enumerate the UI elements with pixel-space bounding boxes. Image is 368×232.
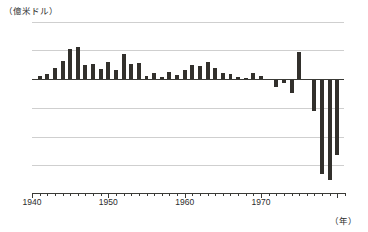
x-tick [215, 193, 216, 196]
x-tick [223, 193, 224, 196]
bar [83, 65, 87, 79]
bar [114, 70, 118, 79]
x-tick [292, 193, 293, 196]
x-tick-label: 1950 [99, 198, 118, 207]
bar [68, 49, 72, 79]
x-tick [253, 193, 254, 196]
x-tick [131, 193, 132, 196]
x-tick [116, 193, 117, 196]
x-tick-label: 1970 [252, 198, 271, 207]
x-tick [330, 193, 331, 196]
x-tick [124, 193, 125, 196]
bar [137, 63, 141, 79]
bar [61, 61, 65, 79]
x-tick [47, 193, 48, 196]
bar [122, 54, 126, 79]
x-tick [314, 193, 315, 196]
x-tick [276, 193, 277, 196]
bar [183, 70, 187, 79]
x-tick [208, 193, 209, 196]
bar [91, 64, 95, 79]
x-tick [78, 193, 79, 196]
bar [290, 79, 294, 93]
x-tick [337, 193, 338, 198]
bar [190, 65, 194, 79]
bar [274, 79, 278, 87]
x-tick [139, 193, 140, 196]
x-tick [200, 193, 201, 196]
x-tick [345, 193, 346, 196]
bar [53, 68, 57, 80]
gridline [32, 108, 344, 109]
bar [297, 52, 301, 79]
x-tick [40, 193, 41, 196]
x-tick [230, 193, 231, 196]
x-tick [299, 193, 300, 196]
x-axis-line [32, 193, 345, 194]
chart-container: （億米ドル） 2001000-100-200-300-400 194019501… [0, 0, 368, 232]
x-tick [322, 193, 323, 196]
zero-line [32, 79, 344, 80]
x-tick [246, 193, 247, 196]
x-tick-label: 1960 [175, 198, 194, 207]
x-tick [55, 193, 56, 196]
x-tick [284, 193, 285, 196]
x-tick [269, 193, 270, 196]
bar [312, 79, 316, 111]
bar [99, 69, 103, 79]
gridline [32, 165, 344, 166]
gridline [32, 22, 344, 23]
bar [320, 79, 324, 174]
x-tick [177, 193, 178, 196]
x-axis-unit-label: （年） [330, 214, 357, 226]
x-tick [93, 193, 94, 196]
x-tick [192, 193, 193, 196]
gridline [32, 137, 344, 138]
x-tick [147, 193, 148, 196]
bar [129, 64, 133, 79]
bar [335, 79, 339, 155]
bar [206, 62, 210, 79]
bar [213, 68, 217, 79]
bar [198, 66, 202, 79]
x-tick [307, 193, 308, 196]
x-tick [101, 193, 102, 196]
bar [167, 72, 171, 79]
x-tick [154, 193, 155, 196]
x-tick [238, 193, 239, 196]
bar [328, 79, 332, 180]
x-tick [63, 193, 64, 196]
x-tick [169, 193, 170, 196]
x-tick-label: 1940 [23, 198, 42, 207]
bar [106, 62, 110, 79]
x-tick [85, 193, 86, 196]
x-tick [162, 193, 163, 196]
bar [76, 47, 80, 79]
x-tick [70, 193, 71, 196]
